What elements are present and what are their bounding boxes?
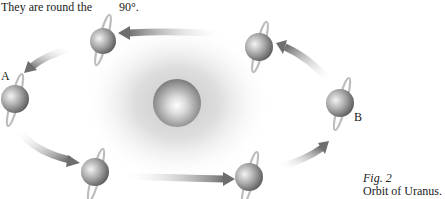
uranus-position-B <box>326 77 354 131</box>
arrow-bottom-right <box>278 141 329 168</box>
orbit-figure: They are round the 90°. A B Fig. 2 Orbit… <box>0 0 445 199</box>
intro-text-right: 90°. <box>119 1 139 14</box>
label-B: B <box>354 111 362 124</box>
arrow-bottom-left <box>18 130 80 167</box>
intro-text-left: They are round the <box>1 1 92 14</box>
uranus-position-bottom-left <box>81 148 109 199</box>
orbit-diagram <box>0 0 445 199</box>
arrow-top-right <box>276 40 330 82</box>
figure-caption: Orbit of Uranus. <box>363 185 442 198</box>
sun-icon <box>153 79 201 127</box>
arrow-top-left <box>24 48 72 73</box>
label-A: A <box>1 70 10 83</box>
